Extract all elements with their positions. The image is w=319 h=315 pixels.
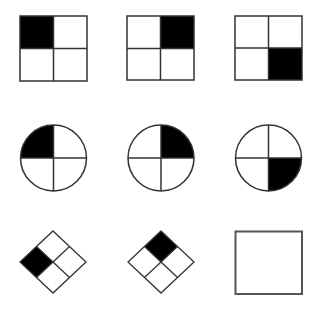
- cell-r3c2-diamond: [128, 231, 194, 293]
- cell-r2c3-circle: [236, 125, 302, 191]
- filled-quadrant-top: [145, 231, 178, 262]
- cell-r2c1-circle: [21, 125, 87, 191]
- puzzle-canvas: [0, 0, 319, 315]
- filled-quadrant-bottom-right: [269, 48, 303, 80]
- filled-quadrant-top-left: [20, 16, 54, 49]
- filled-quadrant-top-right: [161, 16, 195, 49]
- matrix-puzzle: [0, 0, 319, 315]
- cell-r3c1-diamond: [20, 231, 86, 293]
- cell-r1c3-square: [235, 16, 302, 80]
- cell-r1c1-square: [20, 16, 87, 81]
- cell-r1c2-square: [127, 16, 194, 80]
- filled-quadrant-left: [20, 247, 53, 278]
- cell-r3c3-answer-box[interactable]: [236, 232, 303, 295]
- cell-r2c2-circle: [128, 125, 194, 191]
